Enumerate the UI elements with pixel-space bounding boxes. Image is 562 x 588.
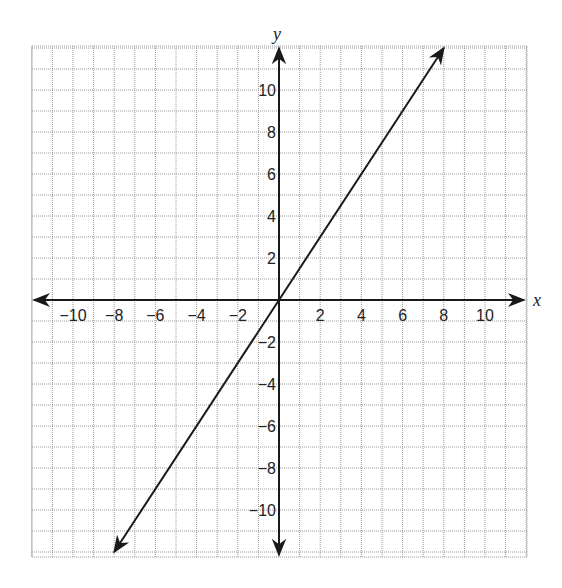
y-tick-label: −10 [249, 502, 276, 519]
x-tick-label: 8 [439, 307, 448, 324]
y-tick-label: 8 [267, 124, 276, 141]
y-tick-label: 2 [267, 250, 276, 267]
x-tick-label: −10 [59, 307, 86, 324]
y-tick-label: 4 [267, 208, 276, 225]
y-tick-label: −8 [258, 460, 276, 477]
x-tick-label: 2 [316, 307, 325, 324]
x-tick-label: −4 [187, 307, 205, 324]
x-tick-label: 10 [476, 307, 494, 324]
coordinate-plane: −10−8−6−4−2246810108642−2−4−6−8−10 x y [0, 0, 562, 588]
x-tick-label: 6 [398, 307, 407, 324]
y-tick-label: 6 [267, 166, 276, 183]
x-tick-label: −6 [146, 307, 164, 324]
x-tick-label: 4 [357, 307, 366, 324]
y-tick-label: −2 [258, 334, 276, 351]
y-tick-label: −6 [258, 418, 276, 435]
y-tick-label: −4 [258, 376, 276, 393]
x-tick-label: −8 [105, 307, 123, 324]
x-tick-label: −2 [229, 307, 247, 324]
y-tick-label: 10 [258, 82, 276, 99]
y-axis-label: y [271, 24, 281, 44]
x-axis-label: x [532, 290, 541, 310]
